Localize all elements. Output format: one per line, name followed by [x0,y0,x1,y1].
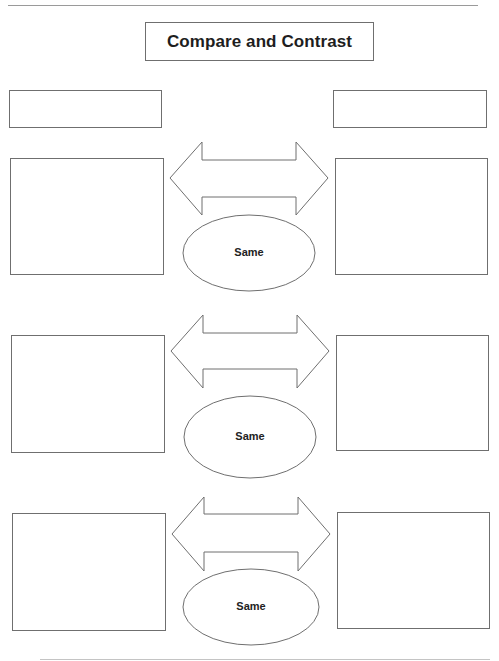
row-2-right-box[interactable] [336,335,489,451]
row-3-same-label: Same [201,600,301,612]
title-box: Compare and Contrast [145,22,374,61]
row-2-same-label: Same [200,430,300,442]
row-2-left-box[interactable] [11,335,165,453]
row-3-left-box[interactable] [12,513,166,631]
row-1-double-arrow-icon [170,142,328,215]
left-label-box[interactable] [9,90,162,128]
row-1-left-box[interactable] [10,158,164,275]
row-3-double-arrow-icon [172,497,330,571]
row-2-double-arrow-icon [171,315,329,388]
row-3-right-box[interactable] [337,512,490,629]
right-label-box[interactable] [333,90,487,128]
row-1-same-label: Same [199,246,299,258]
page-title: Compare and Contrast [167,32,352,52]
header-rule [8,5,478,6]
footer-rule [40,659,490,660]
row-1-right-box[interactable] [335,158,488,275]
